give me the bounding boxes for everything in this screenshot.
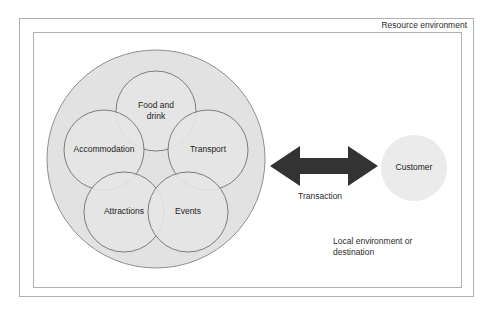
diagram-shapes [0, 0, 495, 316]
sector-label-events: Events [158, 206, 218, 217]
sector-label-food-and-drink: Food and drink [121, 100, 191, 122]
transaction-arrow-shape [270, 146, 378, 186]
sector-label-accommodation: Accommodation [60, 144, 148, 155]
sector-label-transport: Transport [173, 144, 243, 155]
transaction-label: Transaction [298, 191, 342, 202]
diagram-canvas: Resource environment Local environment o… [0, 0, 495, 316]
sector-label-attractions: Attractions [89, 206, 159, 217]
customer-label: Customer [381, 162, 447, 173]
